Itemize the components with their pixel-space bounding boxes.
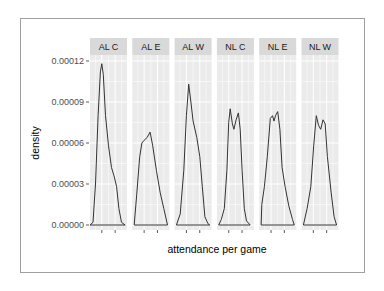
x-axis-title: attendance per game — [167, 243, 266, 255]
facet-panel-al-w: AL W — [175, 38, 212, 233]
facet-label: AL E — [141, 42, 160, 52]
facet-panel-al-c: AL C — [90, 38, 127, 233]
y-tick-label: 0.00006 — [51, 138, 84, 148]
facet-label: AL W — [182, 42, 204, 52]
facet-label: NL C — [225, 42, 246, 52]
facet-panel-nl-e: NL E — [259, 38, 296, 233]
y-axis-title: density — [29, 126, 41, 160]
y-tick-label: 0.00000 — [51, 220, 84, 230]
y-tick-label: 0.00009 — [51, 97, 84, 107]
facet-label: AL C — [99, 42, 119, 52]
y-tick-label: 0.00012 — [51, 56, 84, 66]
facet-label: NL W — [309, 42, 332, 52]
facet-panel-nl-w: NL W — [302, 38, 339, 233]
y-tick-label: 0.00003 — [51, 179, 84, 189]
facet-panel-al-e: AL E — [132, 38, 169, 233]
density-chart: 0.000000.000030.000060.000090.00012AL CA… — [0, 0, 384, 291]
facet-label: NL E — [268, 42, 288, 52]
facet-panel-nl-c: NL C — [217, 38, 254, 233]
